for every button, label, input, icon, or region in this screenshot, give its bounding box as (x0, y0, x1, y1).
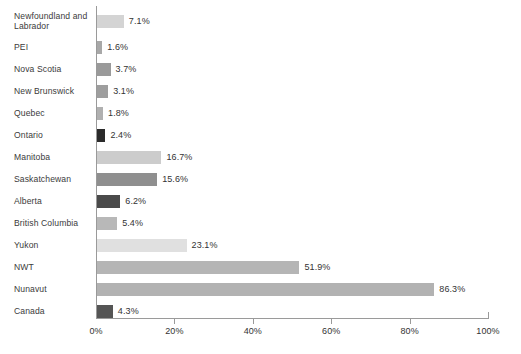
category-label: Quebec (14, 108, 92, 119)
bar-value-label: 3.7% (116, 64, 137, 74)
x-axis-end-cap (488, 312, 489, 319)
x-axis-line (96, 318, 488, 319)
bar-row: Quebec 1.8% (0, 102, 521, 124)
category-label: Nunavut (14, 284, 92, 295)
bar-track: 5.4% (96, 212, 488, 234)
bar-value-label: 16.7% (166, 152, 192, 162)
x-axis-tick-label: 0% (89, 326, 102, 336)
plot-area: Newfoundland and Labrador 7.1% PEI 1.6% … (0, 0, 521, 354)
category-label: Nova Scotia (14, 64, 92, 75)
bar (96, 173, 157, 186)
bar (96, 239, 187, 252)
x-axis-tick (253, 318, 254, 324)
bar-row: Manitoba 16.7% (0, 146, 521, 168)
bar-track: 23.1% (96, 234, 488, 256)
bar-track: 3.1% (96, 80, 488, 102)
bar-track: 7.1% (96, 6, 488, 36)
bar-value-label: 5.4% (122, 218, 143, 228)
bar (96, 15, 124, 28)
category-label: NWT (14, 262, 92, 273)
bar-value-label: 1.8% (108, 108, 129, 118)
category-label: Newfoundland and Labrador (14, 11, 92, 32)
bar-track: 86.3% (96, 278, 488, 300)
bar-track: 6.2% (96, 190, 488, 212)
category-label: Ontario (14, 130, 92, 141)
bar-row: New Brunswick 3.1% (0, 80, 521, 102)
bar-row: PEI 1.6% (0, 36, 521, 58)
x-axis-tick-label: 80% (400, 326, 418, 336)
category-label: Yukon (14, 240, 92, 251)
bar (96, 283, 434, 296)
bar-row: British Columbia 5.4% (0, 212, 521, 234)
bar (96, 305, 113, 318)
bar (96, 195, 120, 208)
bar-row: Yukon 23.1% (0, 234, 521, 256)
bar-row: Ontario 2.4% (0, 124, 521, 146)
category-label: PEI (14, 42, 92, 53)
bar-row: Nova Scotia 3.7% (0, 58, 521, 80)
chart-container: Newfoundland and Labrador 7.1% PEI 1.6% … (0, 0, 521, 354)
bar-value-label: 2.4% (110, 130, 131, 140)
bar-row: Alberta 6.2% (0, 190, 521, 212)
bar (96, 261, 299, 274)
x-axis-tick-label: 100% (476, 326, 499, 336)
category-label: Canada (14, 306, 92, 317)
x-axis-tick (174, 318, 175, 324)
bar-track: 51.9% (96, 256, 488, 278)
bar-value-label: 15.6% (162, 174, 188, 184)
category-label: Saskatchewan (14, 174, 92, 185)
bar-value-label: 6.2% (125, 196, 146, 206)
y-axis-line (96, 6, 97, 318)
bar (96, 217, 117, 230)
x-axis-tick (331, 318, 332, 324)
bar (96, 63, 111, 76)
bar-value-label: 1.6% (107, 42, 128, 52)
x-axis-tick-label: 60% (322, 326, 340, 336)
bar-value-label: 51.9% (304, 262, 330, 272)
category-label: Alberta (14, 196, 92, 207)
bar-track: 1.8% (96, 102, 488, 124)
x-axis-tick (410, 318, 411, 324)
bar-track: 15.6% (96, 168, 488, 190)
bar-track: 3.7% (96, 58, 488, 80)
category-label: Manitoba (14, 152, 92, 163)
category-label: New Brunswick (14, 86, 92, 97)
bar-rows: Newfoundland and Labrador 7.1% PEI 1.6% … (0, 6, 521, 322)
bar-row: Newfoundland and Labrador 7.1% (0, 6, 521, 36)
bar-value-label: 4.3% (118, 306, 139, 316)
bar-track: 1.6% (96, 36, 488, 58)
bar-value-label: 86.3% (439, 284, 465, 294)
bar (96, 107, 103, 120)
bar-row: Nunavut 86.3% (0, 278, 521, 300)
bar-value-label: 7.1% (129, 16, 150, 26)
bar (96, 85, 108, 98)
bar-value-label: 3.1% (113, 86, 134, 96)
bar-row: NWT 51.9% (0, 256, 521, 278)
bar-track: 2.4% (96, 124, 488, 146)
bar-row: Saskatchewan 15.6% (0, 168, 521, 190)
bar-value-label: 23.1% (192, 240, 218, 250)
x-axis-tick-label: 20% (165, 326, 183, 336)
category-label: British Columbia (14, 218, 92, 229)
bar (96, 151, 161, 164)
bar-track: 16.7% (96, 146, 488, 168)
x-axis-tick-label: 40% (244, 326, 262, 336)
bar (96, 129, 105, 142)
x-axis-start-cap (96, 312, 97, 319)
